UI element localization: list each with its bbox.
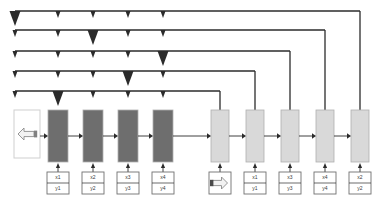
param-arrowhead-1 <box>56 163 60 168</box>
feedback-arrowhead <box>91 11 96 18</box>
feedback-arrowhead-emphasized <box>53 91 64 106</box>
param-arrowhead-8 <box>323 163 327 168</box>
param-label-bottom-p1: y1 <box>55 185 61 191</box>
flow-arrowhead-2 <box>79 133 83 139</box>
param-label-top-p8: x4 <box>322 174 328 180</box>
param-arrowhead-2 <box>91 163 95 168</box>
param-label-top-p2: x2 <box>90 174 96 180</box>
param-label-top-p3: x3 <box>125 174 131 180</box>
flow-arrowhead-6 <box>242 133 246 139</box>
param-arrowhead-7 <box>288 163 292 168</box>
param-connector-stub <box>210 180 213 186</box>
param-label-bottom-p6: y1 <box>252 185 258 191</box>
feedback-arrowhead-emphasized <box>158 51 169 66</box>
feedback-arrowhead <box>91 91 96 98</box>
feedback-arrowhead <box>161 71 166 78</box>
flow-arrowhead-4 <box>149 133 153 139</box>
feedback-arrowhead <box>126 51 131 58</box>
param-label-top-p9: x2 <box>357 174 363 180</box>
feedback-arrowhead <box>126 91 131 98</box>
param-label-bottom-p7: y3 <box>287 185 293 191</box>
feedback-path-1 <box>10 11 361 110</box>
source-connector-stub <box>34 131 37 138</box>
param-arrowhead-4 <box>161 163 165 168</box>
feedback-arrowhead <box>13 91 18 98</box>
stage-block-l2[interactable] <box>246 110 264 162</box>
param-label-bottom-p4: y4 <box>160 185 166 191</box>
param-arrowhead-9 <box>358 163 362 168</box>
feedback-arrowhead <box>13 30 18 37</box>
feedback-arrowhead-emphasized <box>88 30 99 45</box>
feedback-arrowhead-emphasized <box>10 11 21 26</box>
flow-arrowhead-3 <box>114 133 118 139</box>
param-label-bottom-p3: y3 <box>125 185 131 191</box>
feedback-arrowhead <box>13 71 18 78</box>
param-label-top-p1: x1 <box>55 174 61 180</box>
stage-block-l1[interactable] <box>211 110 229 162</box>
flow-arrowhead-5 <box>207 133 211 139</box>
flow-arrowhead-9 <box>347 133 351 139</box>
stage-block-d4[interactable] <box>153 110 173 162</box>
stage-block-d2[interactable] <box>83 110 103 162</box>
param-label-bottom-p2: y2 <box>90 185 96 191</box>
flow-arrowhead-1 <box>44 133 48 139</box>
stage-block-l4[interactable] <box>316 110 334 162</box>
feedback-arrowhead <box>56 71 61 78</box>
feedback-arrowhead-emphasized <box>123 71 134 86</box>
diagram-canvas: x1y1x2y2x3y3x4y4x1y1x3y3x4y4x2y2 <box>0 0 384 201</box>
feedback-arrowhead <box>161 11 166 18</box>
feedback-arrowhead <box>126 11 131 18</box>
flow-arrowhead-8 <box>312 133 316 139</box>
stage-block-l3[interactable] <box>281 110 299 162</box>
stage-block-l5[interactable] <box>351 110 369 162</box>
param-label-bottom-p9: y2 <box>357 185 363 191</box>
diagram-svg: x1y1x2y2x3y3x4y4x1y1x3y3x4y4x2y2 <box>0 0 384 201</box>
stage-block-d1[interactable] <box>48 110 68 162</box>
feedback-arrowhead <box>161 91 166 98</box>
feedback-arrowhead <box>56 11 61 18</box>
param-label-top-p7: x3 <box>287 174 293 180</box>
feedback-arrowhead <box>56 30 61 37</box>
flow-arrowhead-7 <box>277 133 281 139</box>
feedback-arrowhead <box>161 30 166 37</box>
param-label-top-p4: x4 <box>160 174 166 180</box>
feedback-arrowhead <box>91 51 96 58</box>
feedback-arrowhead <box>91 71 96 78</box>
param-arrowhead-5 <box>218 163 222 168</box>
param-arrowhead-6 <box>253 163 257 168</box>
param-arrowhead-3 <box>126 163 130 168</box>
stage-block-d3[interactable] <box>118 110 138 162</box>
feedback-path-5 <box>13 91 221 110</box>
feedback-arrowhead <box>13 51 18 58</box>
param-label-top-p6: x1 <box>252 174 258 180</box>
param-label-bottom-p8: y4 <box>322 185 328 191</box>
feedback-arrowhead <box>56 51 61 58</box>
feedback-path-3 <box>13 51 291 110</box>
feedback-arrowhead <box>126 30 131 37</box>
